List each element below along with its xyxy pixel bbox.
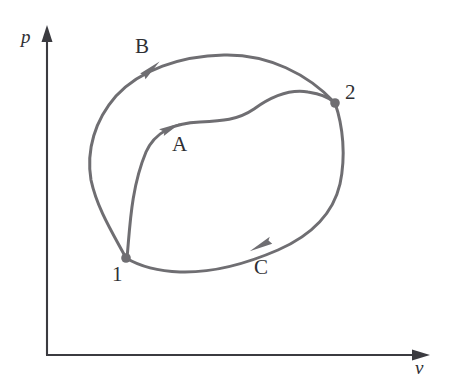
pressure-axis-label: p [21,27,31,46]
process-a-curve [127,91,335,258]
process-a-label: A [172,134,187,155]
process-c-direction-arrow [250,235,273,252]
pv-cycle-figure: p v 1 2 A B C [0,0,450,388]
volume-axis-label: v [415,358,423,377]
pressure-axis-arrowhead [42,25,53,42]
process-c-label: C [254,257,268,278]
process-c-curve [126,103,343,272]
state-1-label: 1 [112,264,123,285]
state-2-marker [330,98,340,108]
state-1-marker [121,253,131,263]
state-2-label: 2 [345,82,356,103]
process-b-label: B [135,36,149,57]
diagram-canvas [0,0,450,388]
process-b-curve [90,55,335,258]
